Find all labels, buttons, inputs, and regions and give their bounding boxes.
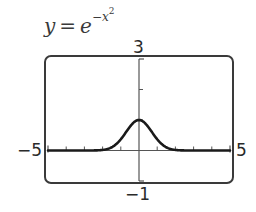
ymax-label: 3	[133, 38, 144, 56]
graph-window	[0, 0, 256, 212]
ymin-label: −1	[125, 185, 150, 203]
xmax-label: 5	[236, 141, 247, 159]
xmin-label: −5	[17, 141, 42, 159]
